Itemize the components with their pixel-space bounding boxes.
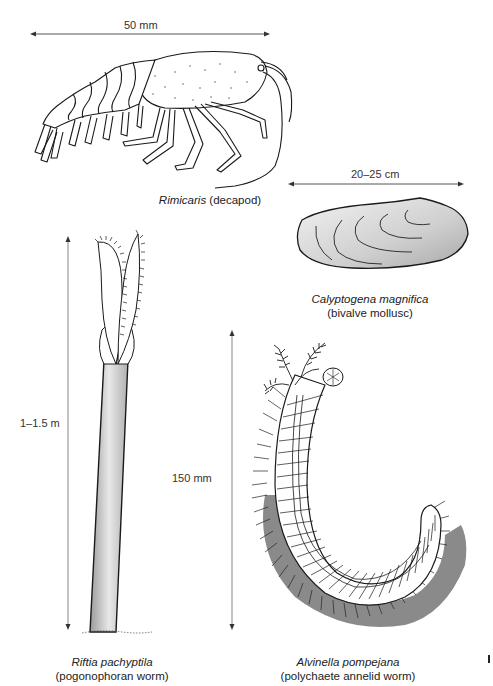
calyptogena-scale-label: 20–25 cm [351,168,399,180]
alvinella-common-name: (polychaete annelid worm) [268,669,428,683]
calyptogena-illustration [292,190,472,270]
calyptogena-scientific-name: Calyptogena magnifica [300,292,440,306]
alvinella-scale-label: 150 mm [172,472,212,484]
riftia-scale-label: 1–1.5 m [20,417,60,429]
horizontal-scale-arrow [288,180,464,190]
riftia-illustration [82,230,162,650]
cropped-text-fragment [488,655,490,663]
riftia-scientific-name: Riftia pachyptila [42,655,182,669]
rimicaris-scale-label: 50 mm [124,19,158,31]
riftia-caption: Riftia pachyptila (pogonophoran worm) [42,655,182,683]
riftia-common-name: (pogonophoran worm) [42,669,182,683]
calyptogena-caption: Calyptogena magnifica (bivalve mollusc) [300,292,440,320]
rimicaris-scientific-name: Rimicaris [159,194,206,206]
vertical-scale-arrow [228,330,236,630]
calyptogena-common-name: (bivalve mollusc) [300,306,440,320]
horizontal-scale-arrow [30,30,270,40]
alvinella-scientific-name: Alvinella pompejana [268,655,428,669]
rimicaris-illustration [35,42,295,192]
alvinella-caption: Alvinella pompejana (polychaete annelid … [268,655,428,683]
rimicaris-common-name: (decapod) [209,194,261,206]
vertical-scale-arrow [64,236,72,630]
alvinella-illustration [245,325,485,645]
rimicaris-caption: Rimicaris (decapod) [155,193,265,207]
